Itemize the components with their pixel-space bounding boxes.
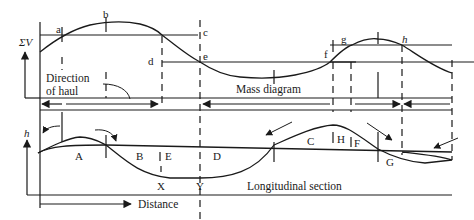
distance-label: Distance (138, 198, 178, 210)
distance-axis: Distance (40, 198, 178, 210)
point-x: X (157, 180, 165, 192)
ground-profile (38, 125, 452, 178)
region-b: B (136, 150, 143, 162)
region-g: G (386, 156, 394, 168)
haul-arrow-a-left (43, 126, 60, 133)
haul-arrow-g-left (434, 138, 458, 148)
region-a: A (75, 150, 83, 162)
mass-diagram-figure: ΣV a b c d e f g h Dir (0, 0, 474, 220)
point-y: Y (196, 180, 204, 192)
mass-diagram-caption: Mass diagram (236, 83, 301, 96)
direction-of-haul-line2: of haul (46, 85, 78, 97)
region-f: F (354, 137, 360, 149)
haul-arrow-f-right (367, 123, 392, 140)
point-g: g (341, 33, 347, 45)
region-d: D (213, 150, 221, 162)
longitudinal-section-caption: Longitudinal section (247, 180, 342, 193)
mass-curve (40, 22, 452, 78)
point-b: b (103, 8, 109, 20)
h-axis-label: h (24, 127, 30, 139)
haul-arrow-c-left (266, 122, 292, 135)
mass-diagram: ΣV a b c d e f g h Dir (18, 8, 474, 220)
point-f: f (324, 48, 328, 60)
longitudinal-section: h A B E D C H F G X Y Longitudinal secti… (24, 112, 458, 195)
point-h: h (402, 33, 408, 45)
point-d: d (148, 55, 154, 67)
direction-of-haul-line1: Direction (46, 72, 90, 84)
formation-line (38, 145, 452, 153)
sigma-v-label: ΣV (18, 36, 34, 48)
region-e: E (165, 150, 172, 162)
point-a: a (56, 23, 61, 35)
haul-direction-band (40, 104, 452, 110)
point-c: c (203, 26, 208, 38)
region-h: H (337, 133, 345, 145)
region-c: C (307, 135, 314, 147)
point-e: e (203, 50, 208, 62)
direction-curl (103, 84, 130, 99)
